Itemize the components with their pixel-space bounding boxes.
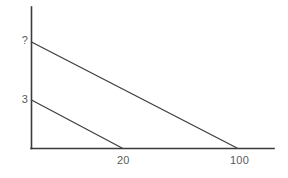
chart-plot-area <box>0 0 288 178</box>
series-line-inner <box>32 100 123 148</box>
series-line-outer <box>32 42 238 148</box>
x-tick-label-twenty: 20 <box>117 154 147 166</box>
x-tick-label-hundred: 100 <box>230 154 264 166</box>
y-tick-label-three: 3 <box>8 93 28 105</box>
chart-container: ? 3 20 100 <box>0 0 288 178</box>
y-tick-label-unknown: ? <box>8 34 28 46</box>
